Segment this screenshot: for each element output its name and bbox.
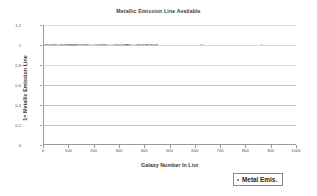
gridline: [44, 85, 296, 86]
y-axis-tick-label: 0.4: [0, 103, 21, 108]
x-axis-label: Galaxy Number In List: [43, 162, 296, 168]
y-axis-tick-label: 0: [0, 143, 21, 148]
x-axis-tick-mark: [43, 145, 44, 148]
x-axis-tick-mark: [195, 145, 196, 148]
x-axis-tick-mark: [119, 145, 120, 148]
y-axis-tick-label: 1: [0, 43, 21, 48]
x-axis-tick-mark: [271, 145, 272, 148]
x-axis-tick-mark: [220, 145, 221, 148]
y-axis-tick-mark: [40, 25, 42, 26]
y-axis-tick-label: 0.8: [0, 63, 21, 68]
gridline: [44, 25, 296, 26]
y-axis-tick-mark: [40, 125, 42, 126]
gridline: [44, 105, 296, 106]
plot-area: [43, 25, 296, 145]
x-axis-tick-mark: [296, 145, 297, 148]
x-axis-tick-mark: [94, 145, 95, 148]
x-axis-tick-mark: [245, 145, 246, 148]
chart-container: Metallic Emission Line Available 00.20.4…: [0, 0, 317, 196]
y-axis-tick-mark: [40, 45, 42, 46]
legend[interactable]: Metal Emis.: [233, 173, 283, 186]
y-axis-tick-mark: [40, 85, 42, 86]
x-axis-tick-label: 1000: [281, 148, 311, 153]
x-axis-tick-mark: [170, 145, 171, 148]
x-axis-tick-mark: [68, 145, 69, 148]
y-axis-tick-label: 0.2: [0, 123, 21, 128]
y-axis-tick-label: 0.6: [0, 83, 21, 88]
gridline: [44, 65, 296, 66]
y-axis-tick-mark: [40, 105, 42, 106]
legend-square-marker-icon: [237, 179, 239, 181]
chart-title: Metallic Emission Line Available: [0, 8, 317, 14]
y-axis-tick-mark: [40, 145, 42, 146]
gridline: [44, 125, 296, 126]
y-axis-tick-label: 1.2: [0, 23, 21, 28]
y-axis-tick-mark: [40, 65, 42, 66]
y-axis-label: 1= Metallic Emission Line: [22, 23, 28, 153]
legend-label: Metal Emis.: [242, 176, 277, 183]
x-axis-tick-mark: [144, 145, 145, 148]
